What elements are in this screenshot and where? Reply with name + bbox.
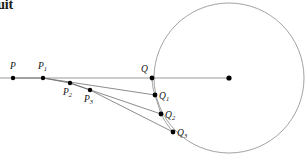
label-Q1-sub: 1	[166, 95, 169, 102]
label-P1-sub: 1	[44, 65, 47, 72]
point-Q2	[159, 112, 164, 117]
point-P	[11, 76, 15, 80]
label-P2-sub: 2	[69, 91, 73, 98]
label-P2: P2	[62, 87, 73, 98]
point-Q	[150, 76, 155, 81]
label-P1: P1	[37, 61, 47, 72]
point-P3	[88, 88, 92, 92]
circle-center-point	[226, 75, 231, 80]
sight-line-P1-Q1	[43, 78, 155, 95]
label-Q-base: Q	[141, 64, 148, 74]
label-P3-sub: 3	[89, 98, 94, 105]
label-Q3: Q3	[177, 128, 188, 139]
label-P: P	[9, 61, 16, 71]
label-Q: Q	[141, 64, 148, 74]
label-Q3-sub: 3	[183, 132, 188, 139]
point-P1	[41, 76, 45, 80]
label-Q2-sub: 2	[172, 114, 176, 121]
label-Q2: Q2	[165, 110, 176, 121]
pursuit-curve	[13, 78, 90, 90]
point-Q3	[171, 130, 176, 135]
diagram-canvas: P P1 P2 P3 Q Q1 Q2 Q3	[0, 0, 307, 160]
label-P3: P3	[83, 94, 94, 105]
label-P-base: P	[9, 61, 16, 71]
pursuit-diagram-figure: rsuit P P1 P2	[0, 0, 307, 160]
point-Q1	[153, 93, 158, 98]
label-Q1: Q1	[159, 91, 169, 102]
point-P2	[68, 81, 72, 85]
